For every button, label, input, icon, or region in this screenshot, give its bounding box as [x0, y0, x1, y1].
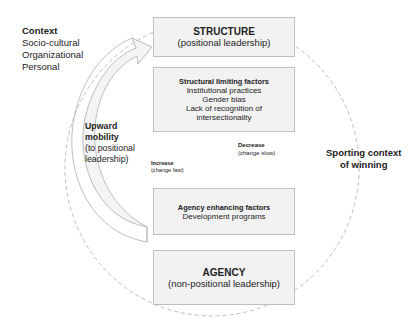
upward-mobility-label: Upward mobility (to positional leadershi… — [85, 121, 135, 165]
structural-limiting-item: Institutional practices — [187, 86, 262, 95]
structure-subtitle: (positional leadership) — [178, 37, 271, 48]
agency-enhancing-title: Agency enhancing factors — [178, 203, 270, 212]
structural-limiting-title: Structural limiting factors — [179, 77, 269, 86]
agency-enhancing-factors-box: Agency enhancing factors Development pro… — [153, 188, 295, 235]
structure-title: STRUCTURE — [193, 26, 255, 37]
context-block: Context Socio-cultural Organizational Pe… — [22, 25, 83, 73]
structural-limiting-factors-box: Structural limiting factors Institutiona… — [153, 67, 295, 132]
agency-enhancing-item: Development programs — [182, 212, 265, 221]
agency-title: AGENCY — [203, 267, 246, 278]
context-title: Context — [22, 25, 83, 37]
agency-box: AGENCY (non-positional leadership) — [153, 250, 295, 305]
structural-limiting-item: Gender bias — [202, 95, 246, 104]
decrease-label: Decrease (change slow) — [238, 142, 275, 157]
structure-box: STRUCTURE (positional leadership) — [153, 17, 295, 57]
structural-limiting-item: intersectionality — [196, 113, 251, 122]
context-item: Organizational — [22, 49, 83, 61]
structural-limiting-item: Lack of recognition of — [186, 104, 262, 113]
context-item: Personal — [22, 61, 83, 73]
context-item: Socio-cultural — [22, 37, 83, 49]
increase-label: Increase (change fast) — [151, 160, 184, 174]
agency-subtitle: (non-positional leadership) — [168, 278, 280, 289]
sporting-context-label: Sporting context of winning — [326, 147, 401, 171]
